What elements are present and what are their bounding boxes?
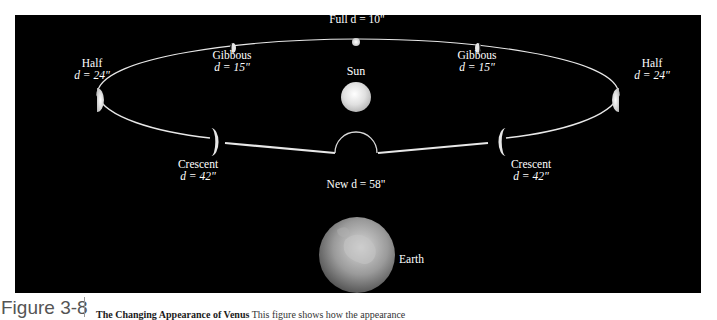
figure-caption: The Changing Appearance of Venus This fi… xyxy=(96,309,405,320)
label-full: Full d = 10" xyxy=(322,13,392,25)
venus-full-icon xyxy=(352,38,360,46)
venus-new-icon xyxy=(335,132,377,176)
figure-number: Figure 3-8 xyxy=(1,297,88,319)
orbit-illustration xyxy=(15,15,701,293)
label-new: New d = 58" xyxy=(316,178,396,190)
label-half-left: Half d = 24" xyxy=(67,57,117,81)
venus-crescent-right-icon xyxy=(498,128,506,156)
earth-icon xyxy=(319,217,395,293)
figure-divider xyxy=(84,297,85,317)
venus-half-left-icon xyxy=(97,88,104,112)
caption-title: The Changing Appearance of Venus xyxy=(96,309,249,320)
label-earth: Earth xyxy=(399,253,439,265)
venus-crescent-left-icon xyxy=(211,128,219,156)
sun-icon xyxy=(341,82,371,112)
label-gibbous-left: Gibbous d = 15" xyxy=(203,49,261,73)
label-crescent-left: Crescent d = 42" xyxy=(168,158,228,182)
label-half-right: Half d = 24" xyxy=(627,57,677,81)
venus-half-right-icon xyxy=(612,88,619,112)
venus-phases-diagram: Full d = 10" Gibbous d = 15" Gibbous d =… xyxy=(15,15,701,293)
caption-text: This figure shows how the appearance xyxy=(252,309,406,320)
label-crescent-right: Crescent d = 42" xyxy=(501,158,561,182)
label-gibbous-right: Gibbous d = 15" xyxy=(448,49,506,73)
label-sun: Sun xyxy=(335,65,377,77)
